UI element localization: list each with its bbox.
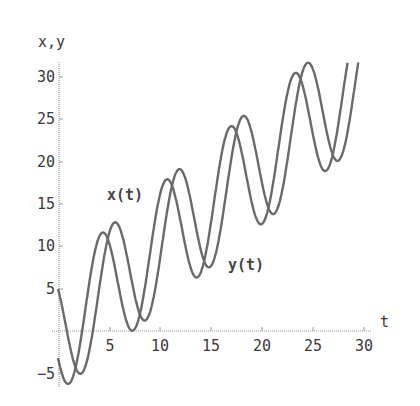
y-tick-30: 30 xyxy=(37,68,55,86)
y-tick-5: 5 xyxy=(46,280,55,298)
x-tick-15: 15 xyxy=(202,337,220,355)
chart: x,y t 30 25 20 15 10 5 −5 5 10 15 20 25 … xyxy=(0,0,420,406)
y-tick-10: 10 xyxy=(37,237,55,255)
x-axis-title: t xyxy=(380,313,389,331)
x-tick-20: 20 xyxy=(253,337,271,355)
y-tick-20: 20 xyxy=(37,153,55,171)
x-curve-label: x(t) xyxy=(107,186,143,204)
x-tick-10: 10 xyxy=(151,337,169,355)
y-curve-label: y(t) xyxy=(228,256,264,274)
x-tick-25: 25 xyxy=(304,337,322,355)
y-tick-25: 25 xyxy=(37,110,55,128)
y-tick-neg5: −5 xyxy=(37,365,55,383)
x-tick-5: 5 xyxy=(105,337,114,355)
y-axis-title: x,y xyxy=(38,33,65,51)
x-curve xyxy=(58,63,348,384)
y-tick-15: 15 xyxy=(37,195,55,213)
x-tick-labels: 5 10 15 20 25 30 xyxy=(105,337,373,355)
y-tick-labels: 30 25 20 15 10 5 −5 xyxy=(37,68,55,383)
x-tick-30: 30 xyxy=(355,337,373,355)
